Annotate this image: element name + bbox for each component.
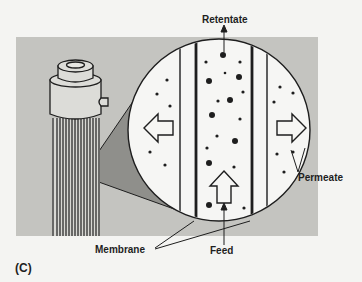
label-feed: Feed [210, 245, 233, 256]
membrane-leader-line-1 [155, 221, 194, 248]
fiber-bundle [52, 118, 100, 236]
membrane-leader-line-2 [155, 221, 250, 249]
label-retentate: Retentate [202, 14, 248, 25]
cartridge-housing [50, 60, 108, 119]
hollow-fiber-diagram [0, 0, 362, 282]
panel-label: (C) [15, 261, 32, 275]
label-permeate: Permeate [298, 172, 343, 183]
retentate-arrowhead-icon [221, 25, 227, 32]
label-membrane: Membrane [95, 244, 145, 255]
